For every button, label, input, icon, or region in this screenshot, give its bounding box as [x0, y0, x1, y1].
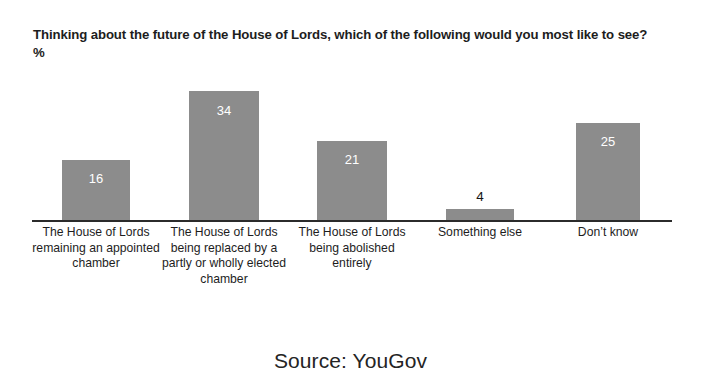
bar-rect[interactable]: 34	[189, 91, 259, 221]
category-label: Something else	[416, 225, 544, 241]
bar-slot: 34	[160, 78, 288, 221]
bar-value-label: 34	[189, 104, 259, 118]
bar-rect[interactable]: 16	[62, 160, 130, 221]
chart-title: Thinking about the future of the House o…	[33, 26, 658, 61]
x-axis-line	[32, 220, 672, 222]
category-label: The House of Lords being abolished entir…	[288, 225, 416, 272]
bar-value-label: 4	[446, 190, 514, 204]
bar-value-label: 25	[576, 135, 640, 149]
bar-rect[interactable]: 21	[317, 141, 387, 221]
bar-slot: 25	[544, 78, 672, 221]
bar-slot: 21	[288, 78, 416, 221]
category-label: The House of Lords being replaced by a p…	[158, 225, 290, 287]
source-attribution: Source: YouGov	[0, 349, 701, 373]
bar-slot: 16	[32, 78, 160, 221]
category-label: Don’t know	[544, 225, 672, 241]
bar-value-label: 21	[317, 153, 387, 167]
x-axis-category-labels: The House of Lords remaining an appointe…	[32, 225, 672, 320]
bar-rect[interactable]: 25	[576, 123, 640, 221]
bar-slot: 4	[416, 78, 544, 221]
bar-value-label: 16	[62, 172, 130, 186]
category-label: The House of Lords remaining an appointe…	[30, 225, 162, 272]
plot-area: 16 34 21 4 25	[32, 78, 672, 221]
